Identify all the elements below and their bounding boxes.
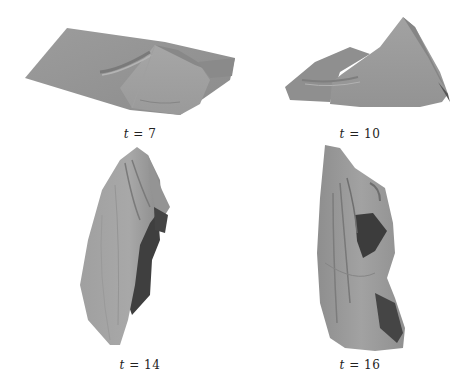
- caption-value: 7: [148, 127, 156, 141]
- figure-panel-t10: [270, 12, 460, 122]
- caption-value: 16: [364, 358, 380, 372]
- cloth-tent-render: [270, 12, 460, 122]
- caption-t14: t = 14: [100, 358, 180, 372]
- caption-value: 14: [144, 358, 160, 372]
- caption-t7: t = 7: [100, 127, 180, 141]
- page-header-cutoff: [20, 0, 420, 2]
- caption-value: 10: [364, 127, 380, 141]
- caption-t16: t = 16: [320, 358, 400, 372]
- cloth-hanging-render: [315, 143, 425, 353]
- caption-equals: =: [125, 358, 144, 372]
- caption-t10: t = 10: [320, 127, 400, 141]
- figure-panel-t7: [20, 20, 245, 120]
- caption-equals: =: [345, 358, 364, 372]
- cloth-hanging-render: [80, 145, 195, 350]
- figure-panel-t16: [315, 143, 425, 353]
- figure-panel-t14: [80, 145, 195, 350]
- cloth-flat-render: [20, 20, 245, 120]
- caption-equals: =: [345, 127, 364, 141]
- caption-equals: =: [129, 127, 148, 141]
